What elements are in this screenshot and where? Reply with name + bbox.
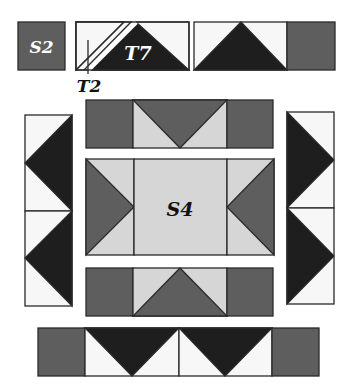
left-column <box>25 115 72 306</box>
label-t7: T7 <box>124 42 151 64</box>
bottom-strip <box>38 328 319 376</box>
quilt-diagram: S2 T7 T2 S4 <box>0 0 355 385</box>
label-t2: T2 <box>77 76 102 96</box>
top-border-unit <box>86 100 273 148</box>
flying-geese-key-unit <box>194 22 335 70</box>
label-s2: S2 <box>29 37 53 57</box>
bottom-border-unit <box>86 268 273 316</box>
right-column <box>287 112 334 304</box>
label-s4: S4 <box>167 198 194 220</box>
